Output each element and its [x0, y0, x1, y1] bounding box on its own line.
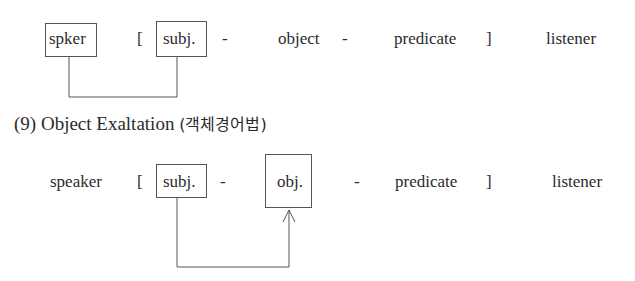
top-connector-line [69, 56, 177, 97]
section-number: (9) [14, 113, 36, 134]
section-heading: (9) Object Exaltation (객체경어법) [14, 113, 267, 136]
object-label: object [278, 29, 320, 49]
subject-box-label: subj. [163, 172, 196, 192]
close-bracket: ] [486, 172, 492, 192]
listener-label: listener [546, 29, 596, 49]
dash: - [354, 172, 360, 192]
dash: - [222, 29, 228, 49]
predicate-label: predicate [394, 29, 456, 49]
speaker-box-label: spker [49, 29, 86, 49]
subject-box-label: subj. [163, 29, 196, 49]
speaker-label: speaker [50, 172, 102, 192]
close-bracket: ] [486, 29, 492, 49]
open-bracket: [ [137, 172, 143, 192]
dash: - [220, 172, 226, 192]
predicate-label: predicate [395, 172, 457, 192]
dash: - [342, 29, 348, 49]
object-box-label: obj. [277, 172, 303, 192]
open-bracket: [ [137, 29, 143, 49]
listener-label: listener [552, 172, 602, 192]
section-title: Object Exaltation [41, 113, 174, 134]
section-korean-title: (객체경어법) [179, 115, 266, 134]
